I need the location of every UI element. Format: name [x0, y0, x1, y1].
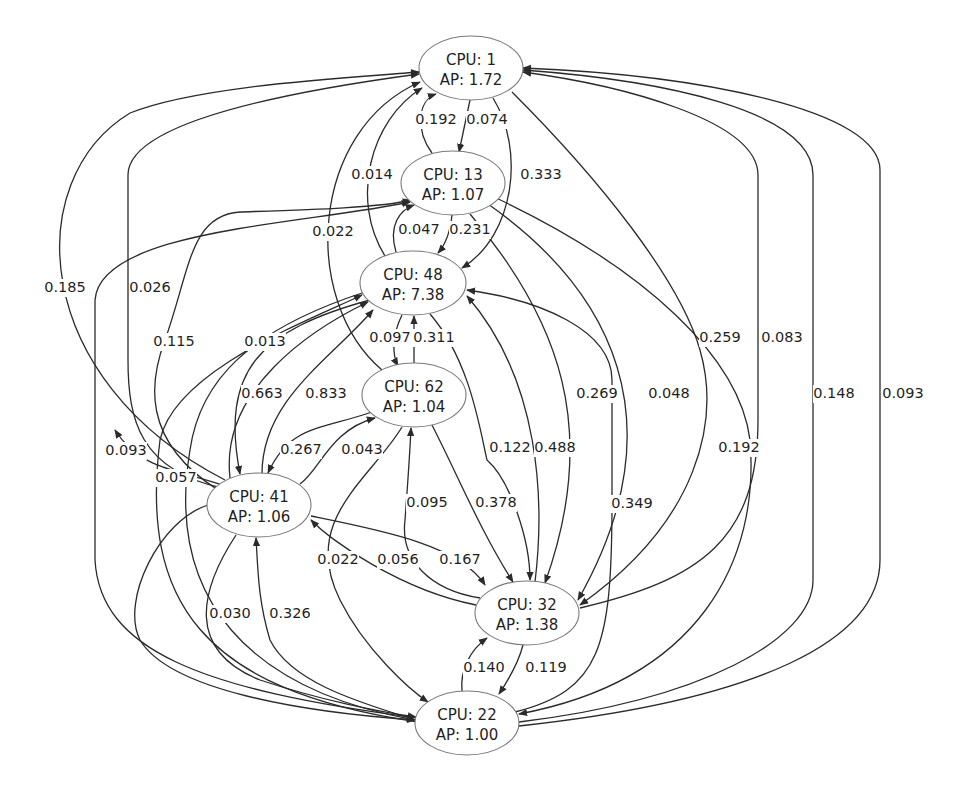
edge-weight-label: 0.026 — [129, 279, 171, 295]
edge-weight-label: 0.148 — [813, 385, 855, 401]
edge-weight-label: 0.074 — [466, 111, 508, 127]
edge-weight-label: 0.048 — [648, 385, 690, 401]
edge-weight-label: 0.013 — [244, 333, 286, 349]
edge-13-to-32 — [470, 214, 570, 583]
edge-weight-label: 0.030 — [209, 605, 251, 621]
node-n1: CPU: 1AP: 1.72 — [419, 36, 523, 100]
edge-weight-label: 0.043 — [341, 441, 383, 457]
edge-weight-label: 0.663 — [241, 385, 283, 401]
graph-canvas: 0.1920.0740.0140.3330.0220.0470.2310.185… — [0, 0, 959, 792]
edge-weight-label: 0.119 — [525, 659, 567, 675]
edge-weight-label: 0.057 — [155, 469, 197, 485]
edge-weight-label: 0.269 — [576, 385, 618, 401]
edge-weight-label: 0.047 — [398, 221, 440, 237]
edge-weight-label: 0.022 — [317, 551, 359, 567]
edge-weight-label: 0.267 — [280, 441, 322, 457]
edge-weight-label: 0.488 — [534, 439, 576, 455]
node-cpu-label: CPU: 13 — [423, 166, 482, 184]
edge-weight-label: 0.056 — [377, 551, 419, 567]
node-ap-label: AP: 1.04 — [383, 398, 446, 416]
node-cpu-label: CPU: 22 — [437, 706, 496, 724]
edge-weight-label: 0.097 — [369, 329, 411, 345]
node-n22: CPU: 22AP: 1.00 — [415, 691, 519, 755]
edge-weight-label: 0.192 — [718, 439, 760, 455]
node-ap-label: AP: 1.07 — [422, 186, 485, 204]
node-cpu-label: CPU: 1 — [446, 51, 496, 69]
edge-weight-label: 0.022 — [312, 223, 354, 239]
node-ap-label: AP: 1.38 — [496, 616, 559, 634]
node-n41: CPU: 41AP: 1.06 — [207, 473, 311, 537]
edge-weight-label: 0.333 — [520, 166, 562, 182]
edge-weight-label: 0.231 — [449, 221, 491, 237]
edge-weight-label: 0.185 — [44, 279, 86, 295]
node-ap-label: AP: 1.06 — [228, 508, 291, 526]
edge-weight-label: 0.093 — [105, 442, 147, 458]
edge-weight-label: 0.095 — [406, 494, 448, 510]
edge-weight-label: 0.192 — [415, 111, 457, 127]
edge-weight-label: 0.167 — [439, 551, 481, 567]
node-cpu-label: CPU: 41 — [229, 488, 288, 506]
node-cpu-label: CPU: 62 — [384, 378, 443, 396]
node-n62: CPU: 62AP: 1.04 — [362, 363, 466, 427]
edge-weight-label: 0.349 — [611, 495, 653, 511]
edge-weight-label: 0.140 — [463, 659, 505, 675]
edge-weight-label: 0.122 — [489, 439, 531, 455]
edge-weight-label: 0.115 — [153, 333, 195, 349]
node-ap-label: AP: 1.72 — [440, 71, 503, 89]
edge-weight-label: 0.326 — [269, 605, 311, 621]
node-n48: CPU: 48AP: 7.38 — [360, 251, 466, 315]
node-n13: CPU: 13AP: 1.07 — [401, 151, 505, 215]
node-cpu-label: CPU: 48 — [383, 266, 442, 284]
edge-weight-label: 0.378 — [475, 494, 517, 510]
node-ap-label: AP: 7.38 — [382, 286, 445, 304]
edge-weight-label: 0.093 — [882, 385, 924, 401]
edge-weight-label: 0.833 — [305, 385, 347, 401]
edge-weight-label: 0.311 — [413, 329, 455, 345]
edge-32-to-62 — [404, 428, 480, 598]
edge-weight-label: 0.259 — [699, 329, 741, 345]
edge-weight-label: 0.014 — [351, 166, 393, 182]
node-n32: CPU: 32AP: 1.38 — [475, 581, 579, 645]
node-cpu-label: CPU: 32 — [497, 596, 556, 614]
node-ap-label: AP: 1.00 — [436, 726, 499, 744]
edge-weight-label: 0.083 — [761, 329, 803, 345]
